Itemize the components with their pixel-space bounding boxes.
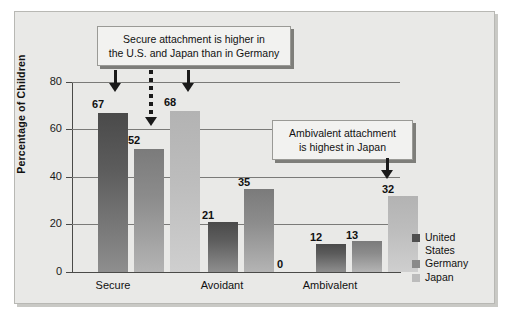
bar-ambivalent-germany xyxy=(352,241,382,272)
callout-arrow-japan-ambivalent-head xyxy=(381,170,393,179)
callout-ambivalent-line1: Ambivalent attachment xyxy=(280,126,405,140)
legend-swatch-germany-icon xyxy=(412,260,420,268)
bar-value-ambivalent-germany: 13 xyxy=(337,229,367,241)
bar-value-secure-united-states: 67 xyxy=(83,98,113,110)
callout-arrow-japan-secure-head xyxy=(182,83,194,92)
callout-secure-line1: Secure attachment is higher in xyxy=(105,32,283,46)
legend-item-japan: Japan xyxy=(412,271,492,284)
y-tick-label-40: 40 xyxy=(22,170,62,182)
callout-arrow-us-secure-head xyxy=(109,83,121,92)
bar-value-secure-germany: 52 xyxy=(119,134,149,146)
chart-figure: Percentage of Children 80 60 40 20 0 67 … xyxy=(0,0,508,320)
bar-value-avoidant-germany: 35 xyxy=(229,176,259,188)
bar-secure-japan xyxy=(170,111,200,273)
y-tick-label-0: 0 xyxy=(22,265,62,277)
bar-ambivalent-united-states xyxy=(316,244,346,273)
x-category-label-avoidant: Avoidant xyxy=(177,279,267,291)
x-category-label-ambivalent: Ambivalent xyxy=(285,279,375,291)
legend-label-germany: Germany xyxy=(425,257,468,270)
y-tick-label-80: 80 xyxy=(22,75,62,87)
callout-secure-attachment: Secure attachment is higher in the U.S. … xyxy=(97,26,291,66)
callout-ambivalent-line2: is highest in Japan xyxy=(280,140,405,154)
x-axis-line xyxy=(72,272,401,273)
callout-arrow-japan-secure-shaft xyxy=(187,70,190,84)
bar-value-ambivalent-japan: 32 xyxy=(373,183,403,195)
callout-arrow-germany-secure-shaft xyxy=(149,70,153,118)
bar-value-secure-japan: 68 xyxy=(155,96,185,108)
bar-secure-germany xyxy=(134,149,164,273)
bar-avoidant-united-states xyxy=(208,222,238,272)
y-axis-tick-labels: 80 60 40 20 0 xyxy=(18,0,62,320)
legend-label-japan: Japan xyxy=(425,271,454,284)
bar-value-ambivalent-united-states: 12 xyxy=(301,231,331,243)
legend-swatch-japan-icon xyxy=(412,274,420,282)
legend-label-united-states: United States xyxy=(425,231,455,256)
y-tick-label-20: 20 xyxy=(22,217,62,229)
y-tick-label-60: 60 xyxy=(22,122,62,134)
callout-arrow-germany-secure-head xyxy=(145,117,157,126)
legend-swatch-united-states-icon xyxy=(412,234,420,242)
legend-item-united-states: United States xyxy=(412,231,492,256)
bar-value-avoidant-united-states: 21 xyxy=(193,209,223,221)
legend-item-germany: Germany xyxy=(412,257,492,270)
callout-arrow-us-secure-shaft xyxy=(114,70,117,84)
callout-ambivalent-attachment: Ambivalent attachment is highest in Japa… xyxy=(272,120,413,160)
bar-value-avoidant-japan: 0 xyxy=(265,258,295,270)
x-category-label-secure: Secure xyxy=(68,279,158,291)
gridline-80 xyxy=(72,82,400,83)
callout-secure-line2: the U.S. and Japan than in Germany xyxy=(105,46,283,60)
chart-legend: United States Germany Japan xyxy=(412,231,492,285)
